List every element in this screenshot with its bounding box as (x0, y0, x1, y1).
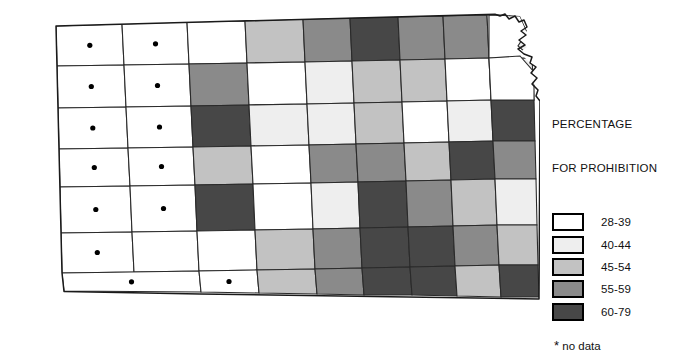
county-region (307, 103, 356, 145)
no-data-dot-icon (157, 124, 162, 129)
county-region (447, 100, 493, 142)
county-region (445, 58, 491, 101)
county-region (404, 142, 451, 181)
county-region (311, 182, 360, 229)
county-region (451, 179, 497, 226)
county-region (358, 181, 408, 228)
no-data-dot-icon (129, 279, 134, 284)
county-region (257, 269, 317, 294)
legend-range-label: 60-79 (601, 306, 631, 318)
no-data-dot-icon (159, 164, 164, 169)
county-region (453, 225, 499, 266)
legend-swatch (552, 258, 584, 276)
legend-range-label: 55-59 (601, 283, 631, 295)
county-region (350, 17, 400, 61)
county-region (352, 60, 402, 103)
legend-no-data-note: * no data (554, 338, 678, 353)
legend-range-label: 28-39 (601, 216, 631, 228)
legend-title: PERCENTAGE FOR PROHIBITION (552, 88, 678, 204)
no-data-dot-icon (87, 43, 92, 48)
legend-row: 28-39 (552, 211, 678, 233)
no-data-dot-icon (93, 207, 98, 212)
legend-title-line-1: PERCENTAGE (552, 117, 678, 132)
legend-range-label: 40-44 (601, 239, 631, 251)
county-region (187, 21, 247, 64)
county-region (191, 105, 251, 147)
legend-swatch (552, 280, 584, 298)
county-region (247, 62, 307, 105)
county-region (195, 184, 255, 231)
county-region (455, 265, 501, 297)
county-region (360, 227, 410, 268)
no-data-dot-icon (226, 279, 231, 284)
county-region (402, 101, 449, 143)
county-region (495, 179, 537, 225)
county-region (193, 146, 253, 185)
legend-class-list: 28-3940-4445-5455-5960-79 (548, 211, 678, 323)
asterisk-icon: * (554, 338, 559, 353)
legend-row: 60-79 (552, 301, 678, 323)
legend-row: 55-59 (552, 278, 678, 300)
county-region (305, 61, 354, 104)
county-region (132, 231, 199, 272)
county-region (253, 183, 313, 230)
legend-row: 40-44 (552, 233, 678, 255)
county-region (443, 15, 489, 59)
county-region (189, 63, 249, 106)
county-region (499, 265, 539, 297)
county-region (245, 19, 305, 63)
county-region (398, 16, 445, 60)
county-region (251, 145, 311, 184)
legend-row: 45-54 (552, 256, 678, 278)
county-regions (56, 14, 539, 297)
county-region (493, 141, 536, 179)
legend-no-data-label: no data (562, 340, 600, 352)
no-data-dot-icon (90, 125, 95, 130)
county-region (406, 180, 453, 227)
county-region (313, 228, 362, 269)
county-region (449, 141, 495, 180)
county-region (356, 143, 406, 182)
county-region (400, 59, 447, 102)
county-region (408, 226, 455, 267)
kansas-county-map (0, 0, 540, 308)
no-data-dot-icon (89, 84, 94, 89)
choropleth-map (0, 0, 540, 308)
county-region (309, 144, 358, 183)
no-data-dot-icon (161, 206, 166, 211)
map-legend: PERCENTAGE FOR PROHIBITION 28-3940-4445-… (548, 88, 678, 308)
legend-swatch (552, 303, 584, 321)
county-region (497, 225, 538, 265)
no-data-dot-icon (92, 165, 97, 170)
no-data-dot-icon (153, 41, 158, 46)
county-region (255, 229, 315, 270)
legend-swatch (552, 236, 584, 254)
county-region (410, 266, 457, 296)
county-region (489, 15, 532, 58)
legend-swatch (552, 213, 584, 231)
legend-range-label: 45-54 (601, 261, 631, 273)
legend-title-line-2: FOR PROHIBITION (552, 161, 678, 176)
county-region (197, 230, 257, 271)
county-region (354, 102, 404, 144)
county-region (249, 104, 309, 146)
county-region (491, 100, 535, 141)
no-data-dot-icon (155, 83, 160, 88)
no-data-dot-icon (95, 250, 100, 255)
county-region (315, 268, 364, 295)
county-region (303, 18, 352, 62)
county-region (362, 267, 412, 295)
